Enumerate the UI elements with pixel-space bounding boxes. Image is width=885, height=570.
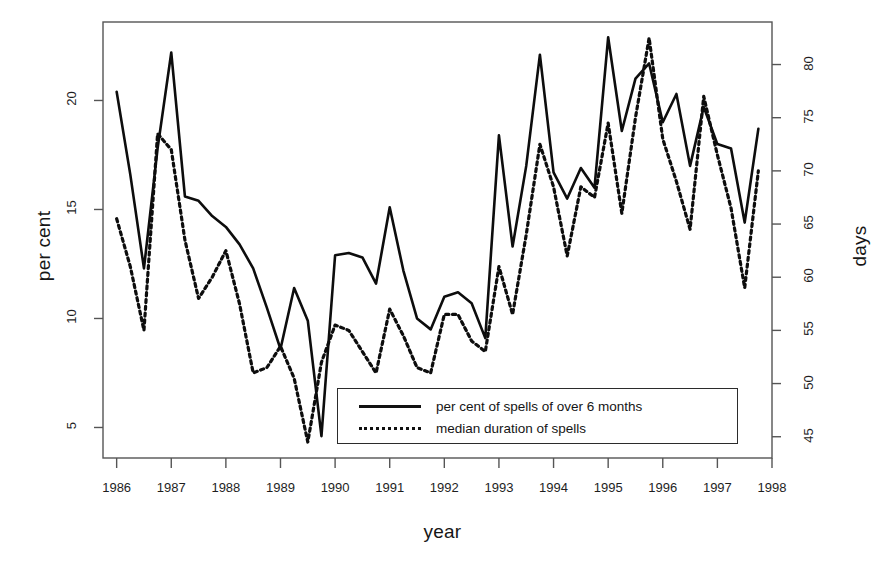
legend-key-solid-line-icon [356, 405, 424, 408]
chart-figure: per cent days year 510152045505560657075… [0, 0, 885, 570]
legend-item-per-cent: per cent of spells of over 6 months [338, 395, 642, 417]
x-axis-tick-label: 1989 [250, 480, 310, 495]
y-axis-right-tick-label: 65 [801, 203, 816, 243]
x-axis-tick-label: 1997 [687, 480, 747, 495]
legend-label-per-cent: per cent of spells of over 6 months [436, 399, 642, 414]
x-axis-title: year [0, 521, 885, 543]
y-axis-left-tick-label: 15 [64, 188, 79, 228]
y-axis-right-title: days [849, 186, 871, 306]
series-line-per-cent [117, 37, 759, 436]
y-axis-right-ticks [772, 65, 781, 437]
x-axis-tick-label: 1996 [633, 480, 693, 495]
y-axis-left-title: per cent [33, 186, 55, 306]
x-axis-tick-label: 1998 [742, 480, 802, 495]
x-axis-ticks [117, 458, 772, 468]
y-axis-left-tick-label: 5 [64, 406, 79, 446]
x-axis-tick-label: 1995 [578, 480, 638, 495]
x-axis-tick-label: 1993 [469, 480, 529, 495]
y-axis-right-tick-label: 55 [801, 309, 816, 349]
series-line-median-duration [117, 38, 759, 442]
x-axis-tick-label: 1992 [414, 480, 474, 495]
y-axis-right-tick-label: 75 [801, 96, 816, 136]
legend-key-dotted-line-icon [356, 427, 424, 430]
legend-item-median-duration: median duration of spells [338, 417, 586, 439]
x-axis-tick-label: 1990 [305, 480, 365, 495]
chart-legend: per cent of spells of over 6 months medi… [337, 388, 738, 444]
y-axis-right-tick-label: 70 [801, 149, 816, 189]
x-axis-tick-label: 1987 [141, 480, 201, 495]
y-axis-right-tick-label: 80 [801, 43, 816, 83]
x-axis-tick-label: 1994 [524, 480, 584, 495]
x-axis-tick-label: 1988 [196, 480, 256, 495]
y-axis-left-tick-label: 10 [64, 297, 79, 337]
legend-label-median-duration: median duration of spells [436, 421, 586, 436]
y-axis-right-tick-label: 50 [801, 362, 816, 402]
y-axis-left-tick-label: 20 [64, 79, 79, 119]
y-axis-right-tick-label: 60 [801, 256, 816, 296]
x-axis-tick-label: 1991 [360, 480, 420, 495]
y-axis-right-tick-label: 45 [801, 415, 816, 455]
x-axis-tick-label: 1986 [87, 480, 147, 495]
y-axis-left-ticks [94, 100, 103, 427]
data-series-group [117, 37, 759, 442]
